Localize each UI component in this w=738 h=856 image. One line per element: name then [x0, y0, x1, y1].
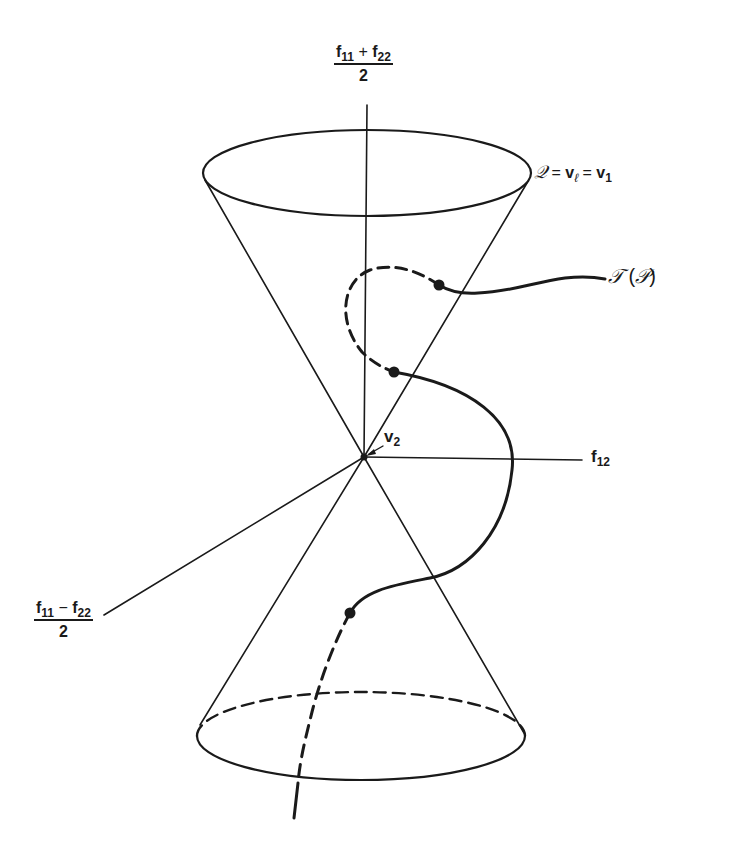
vertical-axis-label: f11 + f22 2 [334, 44, 393, 84]
script-p-symbol: 𝒫 [635, 264, 649, 288]
var-v: v [565, 164, 574, 181]
trajectory-tail-to-label [439, 277, 605, 293]
bottom-ellipse-front [197, 736, 525, 780]
horizontal-axis-label: f12 [591, 448, 610, 465]
vertical-axis [364, 105, 367, 457]
subscript: 11 [41, 606, 54, 620]
var-f: f [372, 43, 377, 60]
vertex-label: v2 [384, 428, 400, 445]
script-q-symbol: 𝒬 [534, 161, 547, 182]
cone-line-lower-right [364, 457, 524, 733]
trajectory-exit [294, 783, 298, 818]
cone-line-upper-right [364, 183, 527, 457]
subscript: 1 [605, 171, 612, 185]
close-paren: ) [649, 265, 656, 287]
trajectory-point-upper [434, 280, 445, 291]
subscript: 11 [341, 50, 354, 64]
subscript: 2 [393, 435, 400, 449]
diagonal-axis-label: f11 − f22 2 [34, 600, 93, 640]
var-f: f [72, 599, 77, 616]
equals-sign: = [578, 164, 596, 181]
trajectory-solid-s-curve [350, 372, 513, 613]
subscript: 22 [78, 606, 91, 620]
script-t-symbol: 𝒯 [608, 264, 623, 288]
plus-operator: + [358, 43, 367, 60]
trajectory-label: 𝒯 (𝒫) [608, 266, 656, 286]
var-v: v [596, 164, 605, 181]
double-cone-diagram [0, 0, 738, 856]
bottom-ellipse-back-dashed [197, 692, 525, 736]
trajectory-dashed-lower [298, 613, 350, 783]
cone-line-upper-left [205, 180, 364, 457]
subscript: 22 [378, 50, 391, 64]
minus-operator: − [58, 599, 67, 616]
denominator: 2 [359, 65, 368, 84]
trajectory-point-lower [345, 608, 356, 619]
cone-line-lower-left [200, 457, 364, 725]
subscript-ell: ℓ [574, 171, 578, 185]
cone-label: 𝒬 = vℓ = v1 [534, 163, 612, 181]
denominator: 2 [59, 621, 68, 640]
trajectory-point-middle [389, 367, 400, 378]
trajectory-dashed-loop [346, 267, 439, 372]
open-paren: ( [623, 265, 635, 287]
diagonal-axis [104, 457, 364, 615]
subscript: 12 [597, 455, 610, 469]
var-f: f [591, 447, 597, 466]
apex-point [361, 454, 368, 461]
horizontal-axis-f12 [364, 457, 582, 460]
equals-sign: = [547, 164, 565, 181]
